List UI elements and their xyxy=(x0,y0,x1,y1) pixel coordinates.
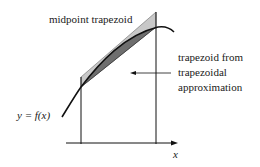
pointer-arrowhead xyxy=(130,71,136,75)
trapezoid-label-line2: trapezoidal xyxy=(178,66,227,78)
function-curve xyxy=(62,27,174,117)
function-label: y = f(x) xyxy=(16,109,50,122)
trapezoid-diagram: midpoint trapezoid trapezoid from trapez… xyxy=(0,0,260,167)
midpoint-trapezoid-label: midpoint trapezoid xyxy=(49,13,133,25)
chord-line xyxy=(81,27,156,87)
trapezoid-label-line1: trapezoid from xyxy=(178,51,243,63)
x-axis-arrowhead xyxy=(171,141,178,146)
trapezoid-label-line3: approximation xyxy=(178,81,243,93)
x-axis-label: x xyxy=(172,148,178,160)
